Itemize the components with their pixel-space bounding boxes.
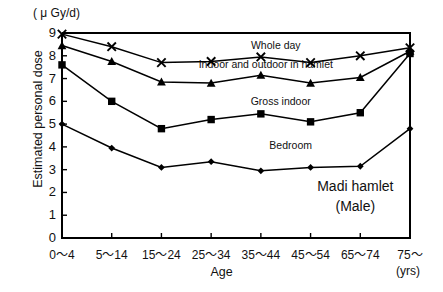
- data-point-diamond: [208, 158, 215, 165]
- data-point-triangle: [256, 71, 265, 79]
- data-point-diamond: [108, 145, 115, 152]
- data-point-square: [158, 125, 165, 132]
- data-point-square: [58, 61, 65, 68]
- data-point-square: [257, 110, 264, 117]
- data-point-diamond: [307, 164, 314, 171]
- data-point-square: [406, 50, 413, 57]
- data-point-square: [307, 118, 314, 125]
- data-point-diamond: [59, 121, 66, 128]
- data-point-triangle: [58, 41, 67, 49]
- data-point-diamond: [158, 164, 165, 171]
- plot-area: [0, 0, 443, 292]
- data-point-square: [108, 98, 115, 105]
- data-point-diamond: [257, 167, 264, 174]
- chart-figure: ( μ Gy/d) Estimated personal dose Age (y…: [0, 0, 443, 292]
- data-point-square: [357, 109, 364, 116]
- data-point-square: [207, 116, 214, 123]
